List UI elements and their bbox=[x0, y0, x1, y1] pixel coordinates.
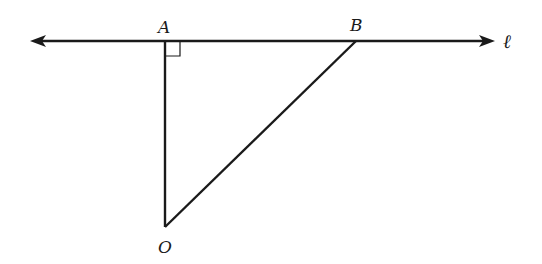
label-b: B bbox=[349, 15, 363, 35]
right-angle-marker bbox=[165, 41, 180, 56]
label-o: O bbox=[158, 237, 172, 257]
line-l bbox=[30, 35, 495, 47]
segment-ob bbox=[165, 41, 356, 227]
geometry-diagram: A B ℓ O bbox=[0, 0, 542, 264]
label-line-l: ℓ bbox=[503, 30, 511, 52]
label-a: A bbox=[156, 17, 170, 37]
